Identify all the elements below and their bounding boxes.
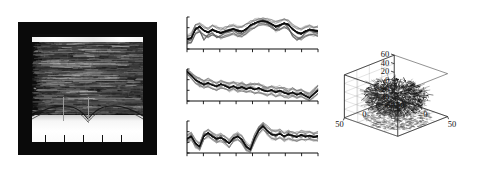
spectrogram-image [32, 34, 143, 142]
scatter3d-svg: -40-200204060-50050-50050 [318, 4, 486, 176]
spectrogram-bright-band [32, 37, 143, 42]
spectrogram-marker-2 [88, 97, 89, 123]
svg-text:40: 40 [381, 58, 390, 68]
svg-text:0: 0 [423, 109, 427, 119]
mini-chart-1 [183, 14, 320, 60]
svg-text:-50: -50 [384, 100, 395, 110]
spectrogram-marker-1 [63, 97, 64, 121]
scatter3d-panel: -40-200204060-50050-50050 [318, 4, 486, 176]
mini-chart-3 [183, 118, 320, 164]
svg-text:-20: -20 [378, 84, 389, 94]
svg-text:60: 60 [381, 49, 390, 59]
svg-text:0: 0 [362, 109, 366, 119]
svg-text:20: 20 [381, 66, 390, 76]
spectrogram-panel [18, 22, 157, 155]
svg-text:50: 50 [335, 119, 344, 129]
stacked-line-charts [183, 14, 325, 169]
spectrogram-axis-ticks [32, 133, 143, 142]
svg-text:0: 0 [385, 75, 389, 85]
mini-chart-2 [183, 66, 320, 112]
three-panel-figure: -40-200204060-50050-50050 [0, 0, 486, 176]
svg-text:50: 50 [448, 119, 457, 129]
